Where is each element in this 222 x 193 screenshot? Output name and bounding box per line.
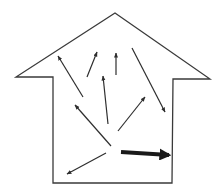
house-arrows-diagram xyxy=(0,0,222,193)
arrows-group xyxy=(58,48,169,174)
arrow-up-right-small-icon xyxy=(87,52,97,77)
diagram-canvas xyxy=(0,0,222,193)
arrow-up-left-long-icon xyxy=(58,56,83,97)
arrow-up-right-center-icon xyxy=(118,97,145,131)
arrow-right-bold-icon xyxy=(121,152,169,155)
arrow-down-left-icon xyxy=(67,153,106,174)
arrow-up-center-icon xyxy=(103,76,108,124)
house-outline xyxy=(16,13,210,183)
arrow-up-left-lower-icon xyxy=(75,105,111,146)
arrow-down-right-long-icon xyxy=(132,48,165,112)
